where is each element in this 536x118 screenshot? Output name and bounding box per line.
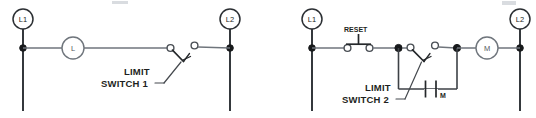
reset-contact-right [366, 45, 373, 52]
left-limit-switch-blade [173, 50, 184, 61]
reset-contact-left [344, 45, 351, 52]
left-l1-label: L1 [19, 15, 27, 24]
left-callout-line1: LIMIT [124, 66, 150, 77]
left-l2-label: L2 [226, 15, 234, 24]
scan-artifact [502, 1, 516, 5]
right-l1-label: L1 [308, 15, 316, 24]
left-limit-switch-contact-right [191, 42, 198, 49]
right-callout-line2: SWITCH 2 [342, 94, 389, 105]
diagram-right: L1 L2 RESET [302, 9, 530, 111]
left-rung-segment-c [198, 47, 230, 48]
right-callout-leader-diagonal [405, 62, 422, 99]
right-l2-label: L2 [516, 15, 524, 24]
motor-coil-label: M [484, 44, 490, 53]
reset-label: RESET [344, 26, 368, 33]
left-callout-leader-diagonal [164, 62, 181, 83]
ladder-diagram-svg: L1 L2 L [0, 0, 536, 118]
right-callout-line1: LIMIT [365, 82, 391, 93]
scan-artifact [112, 1, 128, 4]
diagram-canvas: L1 L2 L [0, 0, 536, 118]
right-limit-switch-blade [413, 50, 425, 62]
holding-contact-label: M [440, 92, 446, 99]
right-limit-switch-contact-right [432, 42, 439, 49]
left-lamp-label: L [71, 44, 75, 53]
diagram-left: L1 L2 L [13, 9, 240, 111]
left-callout-line2: SWITCH 1 [101, 78, 149, 89]
